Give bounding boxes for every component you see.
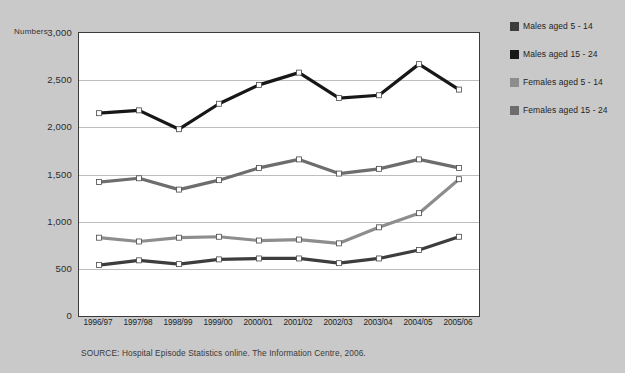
legend-swatch-icon — [510, 106, 519, 115]
series-line — [99, 159, 459, 189]
series-line — [99, 179, 459, 243]
legend-item[interactable]: Females aged 5 - 14 — [510, 76, 622, 88]
data-point-marker — [337, 171, 342, 176]
data-point-marker — [97, 235, 102, 240]
legend-label: Females aged 15 - 24 — [523, 105, 608, 115]
data-point-marker — [457, 177, 462, 182]
data-point-marker — [97, 111, 102, 116]
data-point-marker — [177, 262, 182, 267]
data-point-marker — [257, 165, 262, 170]
data-point-marker — [417, 211, 422, 216]
data-point-marker — [337, 96, 342, 101]
x-tick-label: 2000/01 — [244, 318, 273, 327]
source-note: SOURCE: Hospital Episode Statistics onli… — [81, 348, 366, 358]
data-point-marker — [217, 257, 222, 262]
data-point-marker — [337, 241, 342, 246]
data-point-marker — [177, 235, 182, 240]
data-point-marker — [257, 256, 262, 261]
chart-figure: Numbers 05001,0001,5002,0002,5003,000 19… — [0, 0, 625, 373]
y-tick-label: 2,000 — [28, 121, 72, 132]
data-point-marker — [457, 165, 462, 170]
data-point-marker — [177, 127, 182, 132]
data-point-marker — [97, 180, 102, 185]
data-point-marker — [417, 157, 422, 162]
y-tick-label: 500 — [28, 262, 72, 273]
plot-area — [78, 32, 480, 317]
data-point-marker — [377, 93, 382, 98]
x-axis-ticks: 1996/971997/981998/991999/002000/012001/… — [0, 318, 625, 334]
data-point-marker — [257, 238, 262, 243]
data-point-marker — [177, 187, 182, 192]
data-point-marker — [377, 225, 382, 230]
legend-item[interactable]: Males aged 15 - 24 — [510, 48, 622, 60]
x-tick-label: 1998/99 — [164, 318, 193, 327]
x-tick-label: 1997/98 — [124, 318, 153, 327]
data-point-marker — [297, 256, 302, 261]
data-point-marker — [217, 178, 222, 183]
x-tick-label: 2005/06 — [444, 318, 473, 327]
data-point-marker — [377, 166, 382, 171]
data-point-marker — [137, 108, 142, 113]
data-point-marker — [417, 247, 422, 252]
data-point-marker — [257, 82, 262, 87]
legend-swatch-icon — [510, 50, 519, 59]
y-tick-label: 2,500 — [28, 74, 72, 85]
legend-item[interactable]: Females aged 15 - 24 — [510, 104, 622, 116]
x-tick-label: 1999/00 — [204, 318, 233, 327]
data-point-marker — [137, 239, 142, 244]
x-tick-label: 2003/04 — [364, 318, 393, 327]
data-point-marker — [297, 70, 302, 75]
y-tick-label: 1,500 — [28, 168, 72, 179]
data-point-marker — [217, 234, 222, 239]
legend-label: Males aged 5 - 14 — [523, 21, 593, 31]
data-point-marker — [137, 176, 142, 181]
data-point-marker — [97, 263, 102, 268]
chart-title — [60, 0, 480, 4]
legend-swatch-icon — [510, 22, 519, 31]
data-point-marker — [377, 256, 382, 261]
data-point-marker — [217, 101, 222, 106]
data-point-marker — [337, 261, 342, 266]
x-tick-label: 2001/02 — [284, 318, 313, 327]
data-point-marker — [457, 87, 462, 92]
x-tick-label: 2002/03 — [324, 318, 353, 327]
series-lines — [79, 33, 479, 316]
series-line — [99, 64, 459, 129]
data-point-marker — [297, 237, 302, 242]
data-point-marker — [417, 62, 422, 67]
y-tick-label: 3,000 — [28, 27, 72, 38]
legend-label: Females aged 5 - 14 — [523, 77, 603, 87]
data-point-marker — [457, 234, 462, 239]
data-point-marker — [297, 157, 302, 162]
x-tick-label: 1996/97 — [84, 318, 113, 327]
legend-label: Males aged 15 - 24 — [523, 49, 598, 59]
legend-item[interactable]: Males aged 5 - 14 — [510, 20, 622, 32]
y-tick-label: 1,000 — [28, 215, 72, 226]
legend-swatch-icon — [510, 78, 519, 87]
x-tick-label: 2004/05 — [404, 318, 433, 327]
chart-legend: Males aged 5 - 14Males aged 15 - 24Femal… — [510, 20, 622, 132]
data-point-marker — [137, 258, 142, 263]
